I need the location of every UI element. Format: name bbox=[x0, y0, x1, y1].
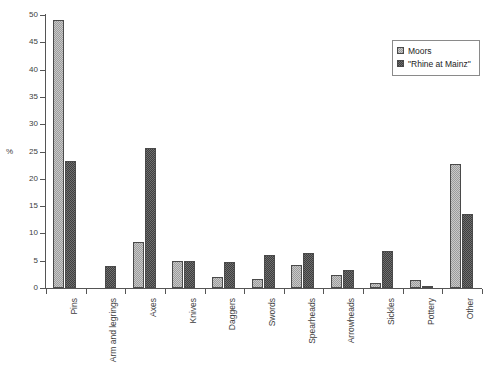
x-axis-category-label: Arrowheads bbox=[346, 298, 356, 343]
y-axis-tick-label: 40 bbox=[16, 65, 38, 74]
bar bbox=[370, 283, 381, 288]
bar-chart: % 05101520253035404550 PinsArm and legri… bbox=[0, 0, 488, 371]
legend-swatch-rhine-at-mainz-icon bbox=[397, 60, 404, 67]
bar-group bbox=[252, 15, 275, 288]
x-axis-category-label: Pottery bbox=[426, 298, 436, 325]
bar-group bbox=[172, 15, 195, 288]
y-axis-tick-label: 0 bbox=[16, 283, 38, 292]
x-axis-category-label: Daggers bbox=[227, 298, 237, 330]
bar-group bbox=[212, 15, 235, 288]
x-axis-category-label: Sickles bbox=[386, 298, 396, 325]
x-axis-tick bbox=[323, 289, 324, 294]
x-axis-tick bbox=[363, 289, 364, 294]
x-axis-tick bbox=[482, 289, 483, 294]
x-axis-tick bbox=[205, 289, 206, 294]
x-axis-category-label: Arm and legrings bbox=[108, 298, 118, 362]
bar-group bbox=[53, 15, 76, 288]
x-axis-tick bbox=[403, 289, 404, 294]
bar bbox=[343, 270, 354, 288]
x-axis-tick bbox=[86, 289, 87, 294]
legend-label-moors: Moors bbox=[408, 46, 432, 56]
bar-group bbox=[133, 15, 156, 288]
bar bbox=[462, 214, 473, 288]
legend-item: Moors bbox=[397, 45, 475, 56]
bar bbox=[382, 251, 393, 288]
bar bbox=[410, 280, 421, 288]
y-axis-tick-label: 45 bbox=[16, 37, 38, 46]
bar bbox=[145, 148, 156, 288]
x-axis-tick bbox=[46, 289, 47, 294]
y-axis-tick-label: 50 bbox=[16, 10, 38, 19]
bar bbox=[303, 253, 314, 288]
y-axis-title: % bbox=[6, 147, 13, 156]
x-axis-category-label: Pins bbox=[69, 298, 79, 315]
bar bbox=[450, 164, 461, 288]
bar bbox=[65, 161, 76, 288]
x-axis-line bbox=[45, 288, 482, 289]
x-axis-category-label: Swords bbox=[267, 298, 277, 326]
y-axis-tick-label: 25 bbox=[16, 147, 38, 156]
x-axis-tick bbox=[244, 289, 245, 294]
x-axis-category-label: Axes bbox=[148, 298, 158, 317]
bar bbox=[172, 261, 183, 288]
legend-swatch-moors-icon bbox=[397, 47, 404, 54]
legend-label-rhine-at-mainz: "Rhine at Mainz" bbox=[408, 59, 471, 69]
x-axis-category-label: Other bbox=[465, 298, 475, 319]
x-axis-category-label: Spearheads bbox=[307, 298, 317, 344]
y-axis-tick-label: 5 bbox=[16, 256, 38, 265]
y-axis-tick-label: 35 bbox=[16, 92, 38, 101]
y-axis-tick-label: 20 bbox=[16, 174, 38, 183]
x-axis-category-label: Knives bbox=[188, 298, 198, 324]
y-axis-tick-label: 30 bbox=[16, 119, 38, 128]
bar bbox=[264, 255, 275, 288]
x-axis-tick bbox=[165, 289, 166, 294]
bar bbox=[53, 20, 64, 288]
x-axis-tick bbox=[125, 289, 126, 294]
bar bbox=[291, 265, 302, 288]
bar bbox=[133, 242, 144, 288]
x-axis-tick bbox=[442, 289, 443, 294]
bar bbox=[252, 279, 263, 288]
x-axis-tick bbox=[284, 289, 285, 294]
bar-group bbox=[93, 15, 116, 288]
bar-group bbox=[370, 15, 393, 288]
y-axis-tick-label: 10 bbox=[16, 228, 38, 237]
legend-item: "Rhine at Mainz" bbox=[397, 58, 475, 69]
bar-group bbox=[331, 15, 354, 288]
chart-legend: Moors "Rhine at Mainz" bbox=[392, 40, 480, 76]
bar bbox=[105, 266, 116, 288]
bar bbox=[184, 261, 195, 288]
bar bbox=[224, 262, 235, 288]
y-axis-tick-label: 15 bbox=[16, 201, 38, 210]
bar-group bbox=[291, 15, 314, 288]
bar bbox=[331, 275, 342, 288]
bar bbox=[212, 277, 223, 288]
bar bbox=[422, 286, 433, 288]
